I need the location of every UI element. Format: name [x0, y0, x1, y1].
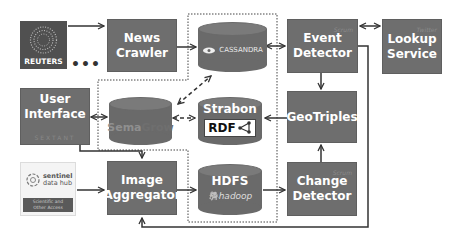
image-aggregator-line1: Image: [121, 173, 163, 188]
event-detector-tag: Scrum: [334, 22, 353, 37]
user-interface-line1: User: [40, 92, 71, 107]
lookup-service-box[interactable]: Twitter Lookup Service: [382, 19, 442, 74]
news-crawler-line2: Crawler: [116, 46, 168, 61]
hadoop-label: hadoop: [219, 191, 253, 201]
reuters-logo-icon: [20, 23, 67, 59]
sextant-logo-label: SEXTANT: [34, 130, 75, 145]
sentinel-line2: data hub: [43, 180, 73, 187]
rdf-badge: RDF: [204, 119, 255, 137]
more-sources-ellipsis: •••: [71, 56, 101, 72]
change-detector-line2: Detector: [293, 189, 352, 204]
user-interface-box[interactable]: User Interface SEXTANT: [20, 88, 90, 145]
semagrow-label-a: Sema: [107, 121, 141, 134]
user-interface-line2: Interface: [24, 107, 85, 122]
hadoop-logo: 🐘hadoop: [208, 191, 253, 201]
cassandra-eye-icon: [202, 47, 216, 54]
image-aggregator-box[interactable]: Image Aggregator: [107, 161, 177, 215]
geotriples-box[interactable]: GeoTriples: [287, 91, 357, 143]
rdf-label: RDF: [208, 121, 235, 135]
semagrow-label-b: Grow: [142, 121, 174, 134]
hdfs-title: HDFS: [212, 174, 249, 188]
strabon-title: Strabon: [203, 102, 257, 116]
cassandra-cylinder[interactable]: CASSANDRA: [198, 22, 267, 72]
change-detector-tag: Scrum: [333, 165, 352, 180]
image-aggregator-line2: Aggregator: [103, 188, 180, 203]
sentinel-data-hub-source: sentineldata hub Scientific andOther Acc…: [20, 162, 76, 216]
change-detector-box[interactable]: Scrum Change Detector: [287, 162, 357, 216]
geotriples-label: GeoTriples: [286, 110, 357, 125]
reuters-label: REUTERS: [20, 57, 67, 66]
event-detector-box[interactable]: Scrum Event Detector: [287, 19, 358, 73]
cassandra-label: CASSANDRA: [219, 46, 262, 54]
lookup-service-tag: Twitter: [416, 22, 437, 37]
strabon-cylinder[interactable]: Strabon RDF: [198, 97, 262, 145]
sentinel-logo-icon: [25, 172, 41, 188]
news-crawler-box[interactable]: News Crawler: [107, 19, 177, 72]
rdf-graph-icon: [238, 121, 252, 134]
semagrow-cylinder[interactable]: SemaGrow: [109, 97, 172, 145]
news-crawler-line1: News: [124, 31, 160, 46]
lookup-service-line2: Service: [387, 47, 437, 62]
hdfs-cylinder[interactable]: HDFS 🐘hadoop: [198, 164, 262, 215]
reuters-source: REUTERS: [20, 21, 67, 69]
event-detector-line2: Detector: [293, 46, 352, 61]
sentinel-band2: Other Access: [23, 205, 73, 211]
